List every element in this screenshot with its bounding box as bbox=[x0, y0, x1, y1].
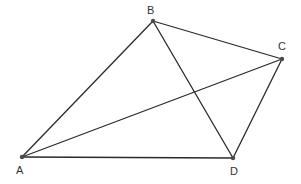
segment-cd bbox=[233, 59, 282, 158]
point-a bbox=[20, 155, 24, 159]
points-group bbox=[20, 19, 284, 160]
label-a: A bbox=[16, 164, 24, 176]
geometry-diagram: ABCD bbox=[0, 0, 301, 184]
label-b: B bbox=[147, 4, 154, 16]
segment-ac bbox=[22, 59, 282, 157]
segments-group bbox=[22, 21, 282, 158]
label-c: C bbox=[278, 40, 286, 52]
point-d bbox=[231, 156, 235, 160]
point-c bbox=[280, 57, 284, 61]
diagram-canvas: ABCD bbox=[0, 0, 301, 184]
segment-da bbox=[22, 157, 233, 158]
segment-ab bbox=[22, 21, 153, 157]
labels-group: ABCD bbox=[16, 4, 286, 177]
label-d: D bbox=[230, 165, 238, 177]
point-b bbox=[151, 19, 155, 23]
